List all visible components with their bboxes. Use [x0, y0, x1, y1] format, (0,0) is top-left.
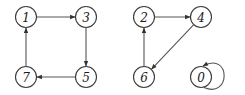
edge-4-6 — [152, 25, 194, 69]
node-5: 5 — [76, 67, 97, 88]
node-label: 2 — [139, 11, 148, 25]
directed-graph: 13572460 — [0, 0, 245, 95]
node-1: 1 — [16, 7, 37, 28]
node-3: 3 — [76, 7, 97, 28]
node-label: 1 — [22, 11, 30, 25]
node-label: 4 — [196, 11, 205, 25]
node-7: 7 — [16, 67, 37, 88]
node-4: 4 — [191, 7, 212, 28]
node-2: 2 — [134, 7, 155, 28]
node-label: 7 — [22, 71, 30, 85]
node-label: 0 — [197, 71, 205, 85]
node-label: 6 — [140, 71, 148, 85]
node-6: 6 — [134, 67, 155, 88]
node-label: 3 — [82, 11, 90, 25]
nodes-layer: 13572460 — [16, 7, 212, 88]
node-0: 0 — [191, 67, 212, 88]
node-label: 5 — [82, 71, 90, 85]
